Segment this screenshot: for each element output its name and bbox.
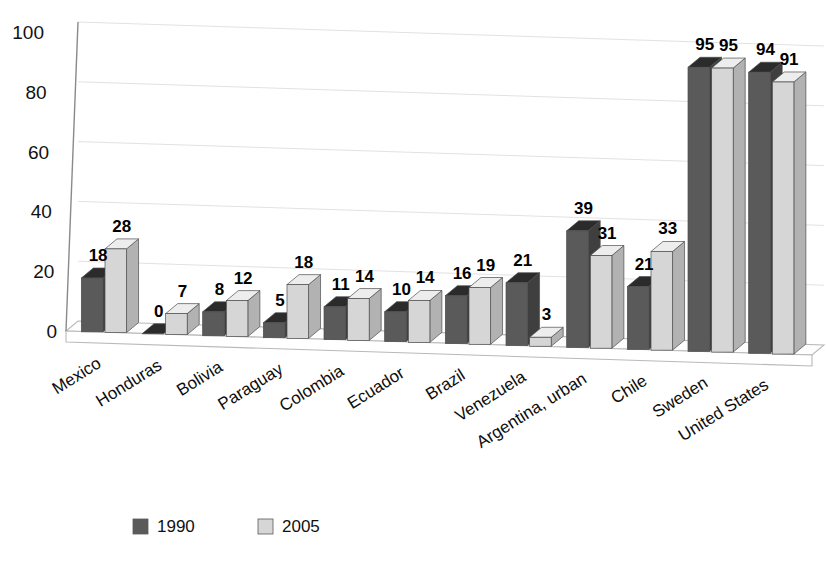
y-axis-tick-label: 60 <box>28 142 49 163</box>
legend-label: 1990 <box>157 517 195 536</box>
bar-front-face <box>772 82 794 354</box>
bar-2005-brazil <box>469 278 503 345</box>
bar-2005-sweden <box>712 58 746 352</box>
bar-side-face <box>309 275 321 339</box>
legend-swatch <box>258 519 273 534</box>
bar-front-face <box>590 256 612 349</box>
legend-item-1990[interactable]: 1990 <box>133 517 195 536</box>
bar-2005-united-states <box>772 72 806 354</box>
bar-2005-colombia <box>348 289 382 341</box>
bar-value-label: 28 <box>112 217 131 236</box>
bar-front-face <box>385 312 407 342</box>
bar-2005-bolivia <box>226 291 260 337</box>
bar-2005-paraguay <box>287 275 321 339</box>
bar-front-face <box>651 251 673 350</box>
bar-value-label: 91 <box>780 50 799 69</box>
bar-front-face <box>203 312 225 336</box>
bar-value-label: 14 <box>355 267 374 286</box>
bar-2005-chile <box>651 241 685 350</box>
bar-value-label: 94 <box>756 40 775 59</box>
bar-front-face <box>627 287 649 350</box>
bar-front-face <box>408 300 430 342</box>
y-axis-tick-label: 80 <box>25 82 46 103</box>
bar-front-face <box>530 337 552 346</box>
bar-value-label: 12 <box>234 269 253 288</box>
bar-value-label: 18 <box>294 253 313 272</box>
bar-front-face <box>712 68 734 352</box>
chart-canvas: 020406080100 182807812518111410141619213… <box>0 0 826 567</box>
bar-value-label: 18 <box>89 246 108 265</box>
bar-value-label: 3 <box>542 305 551 324</box>
bar-front-face <box>263 323 285 338</box>
bar-front-face <box>749 72 771 353</box>
bar-front-face <box>445 296 467 344</box>
bar-side-face <box>491 278 503 345</box>
bar-front-face <box>469 288 491 345</box>
bar-2005-argentina-urban <box>590 246 624 349</box>
bar-side-face <box>612 246 624 349</box>
bar-front-face <box>688 67 710 351</box>
y-axis-tick-label: 20 <box>33 261 54 282</box>
bar-value-label: 19 <box>476 256 495 275</box>
legend-item-2005[interactable]: 2005 <box>258 517 320 536</box>
bar-value-label: 39 <box>574 199 593 218</box>
bar-value-label: 21 <box>513 251 532 270</box>
bar-front-face <box>81 278 103 332</box>
bar-value-label: 5 <box>275 291 284 310</box>
bar-value-label: 0 <box>154 302 163 321</box>
bar-2005-mexico <box>105 239 139 333</box>
bar-value-label: 10 <box>392 280 411 299</box>
bar-side-face <box>673 241 685 350</box>
bar-side-face <box>794 72 806 354</box>
bar-value-label: 14 <box>416 268 435 287</box>
y-axis-tick-label: 0 <box>46 321 57 342</box>
bar-value-label: 31 <box>598 224 617 243</box>
bar-front-face <box>506 283 528 346</box>
bar-front-face <box>348 299 370 341</box>
bar-front-face <box>105 249 127 333</box>
bar-chart: 020406080100 182807812518111410141619213… <box>0 0 826 567</box>
bar-side-face <box>127 239 139 333</box>
legend-swatch <box>133 519 148 534</box>
bar-value-label: 95 <box>719 36 738 55</box>
bar-front-face <box>567 231 589 348</box>
bar-value-label: 95 <box>695 35 714 54</box>
y-axis-tick-label: 100 <box>12 22 44 43</box>
bar-front-face <box>226 301 248 337</box>
bar-value-label: 33 <box>658 219 677 238</box>
bar-front-face <box>324 307 346 340</box>
bar-value-label: 16 <box>453 264 472 283</box>
bar-2005-ecuador <box>408 290 442 342</box>
legend-label: 2005 <box>282 517 320 536</box>
bar-value-label: 21 <box>635 255 654 274</box>
bar-side-face <box>733 58 745 352</box>
bar-front-face <box>166 314 188 335</box>
y-axis-tick-label: 40 <box>31 201 52 222</box>
bar-value-label: 8 <box>215 280 224 299</box>
bar-front-face <box>287 285 309 339</box>
bar-value-label: 11 <box>332 275 350 294</box>
bar-value-label: 7 <box>178 282 187 301</box>
